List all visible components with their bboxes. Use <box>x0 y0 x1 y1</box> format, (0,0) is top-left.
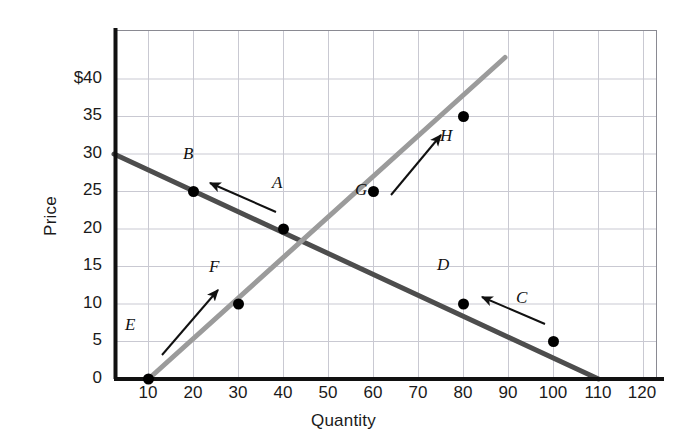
point-label-F: F <box>209 257 219 277</box>
point-H <box>458 111 469 122</box>
x-tick-90: 90 <box>486 383 530 403</box>
point-label-G: G <box>355 180 367 200</box>
point-label-C: C <box>516 288 527 308</box>
point-label-D: D <box>437 255 449 275</box>
point-label-H: H <box>440 126 452 146</box>
point-D <box>458 299 469 310</box>
y-tick-40: $40 <box>46 68 102 88</box>
y-tick-10: 10 <box>46 293 102 313</box>
x-tick-120: 120 <box>620 383 664 403</box>
x-tick-50: 50 <box>306 383 350 403</box>
y-tick-25: 25 <box>46 180 102 200</box>
y-tick-0: 0 <box>46 368 102 388</box>
point-label-B: B <box>183 144 193 164</box>
point-label-A: A <box>272 173 282 193</box>
y-tick-20: 20 <box>46 218 102 238</box>
x-tick-100: 100 <box>531 383 575 403</box>
x-tick-80: 80 <box>441 383 485 403</box>
y-tick-15: 15 <box>46 255 102 275</box>
plot-background <box>114 30 657 379</box>
supply-demand-chart-figure: Price Quantity $40 35 30 25 20 15 10 5 0… <box>0 0 687 447</box>
point-C <box>548 336 559 347</box>
point-B <box>188 186 199 197</box>
x-tick-110: 110 <box>576 383 620 403</box>
point-G <box>368 186 379 197</box>
x-tick-70: 70 <box>396 383 440 403</box>
x-axis-title: Quantity <box>0 411 687 431</box>
point-label-E: E <box>125 315 135 335</box>
x-tick-30: 30 <box>216 383 260 403</box>
x-tick-60: 60 <box>351 383 395 403</box>
x-tick-20: 20 <box>171 383 215 403</box>
y-tick-30: 30 <box>46 143 102 163</box>
x-tick-40: 40 <box>261 383 305 403</box>
point-F <box>233 299 244 310</box>
point-A <box>278 224 289 235</box>
y-tick-5: 5 <box>46 330 102 350</box>
x-tick-10: 10 <box>126 383 170 403</box>
y-tick-35: 35 <box>46 105 102 125</box>
chart-canvas <box>0 0 687 447</box>
